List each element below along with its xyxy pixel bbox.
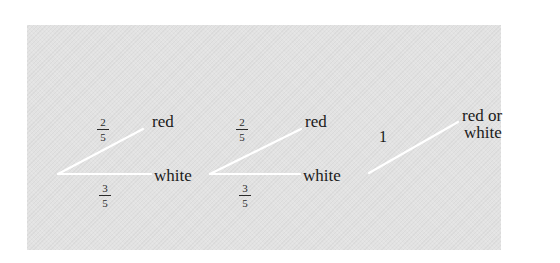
prob-denominator: 5: [97, 130, 109, 143]
prob-denominator: 5: [239, 196, 251, 209]
branch-2-red: [210, 129, 301, 174]
prob-numerator: 3: [239, 183, 251, 196]
outcome-3-line2: white: [464, 124, 502, 141]
outcome-1-white: white: [154, 167, 192, 184]
prob-denominator: 5: [236, 130, 248, 143]
prob-3-any: 1: [379, 128, 387, 145]
prob-2-red: 2 5: [236, 117, 248, 143]
outcome-2-red: red: [305, 113, 327, 130]
prob-numerator: 2: [97, 117, 109, 130]
prob-denominator: 5: [99, 196, 111, 209]
prob-numerator: 2: [236, 117, 248, 130]
outcome-2-white: white: [303, 167, 341, 184]
prob-1-red: 2 5: [97, 117, 109, 143]
outcome-1-red: red: [152, 113, 174, 130]
prob-2-white: 3 5: [239, 183, 251, 209]
prob-numerator: 3: [99, 183, 111, 196]
prob-1-white: 3 5: [99, 183, 111, 209]
outcome-3-line1: red or: [462, 107, 502, 124]
